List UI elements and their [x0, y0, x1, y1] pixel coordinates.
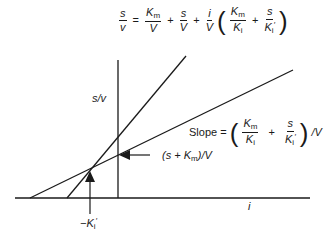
s-over-v: s V [180, 8, 188, 34]
km-over-v: Km V [145, 7, 161, 35]
s-over-ki-prime: s Ki′ [264, 6, 275, 35]
intercept-label: (s + Km)/V [162, 150, 212, 163]
rate-equation: s v = Km V + s V + i V ( Km Ki + s Ki′ ) [118, 6, 288, 36]
x-axis-label: i [248, 201, 250, 212]
slope-annotation: Slope = ( Km Ki + s Ki′ ) /V [189, 118, 322, 148]
y-axis-label: s/v [92, 93, 106, 104]
intersection-label: −Ki′ [80, 217, 97, 231]
i-over-v: i V [206, 8, 213, 34]
steep-line [67, 56, 186, 198]
lhs-fraction: s v [119, 8, 127, 34]
km-over-ki: Km Ki [230, 6, 246, 36]
intersection-arrow-head-icon [85, 171, 95, 182]
